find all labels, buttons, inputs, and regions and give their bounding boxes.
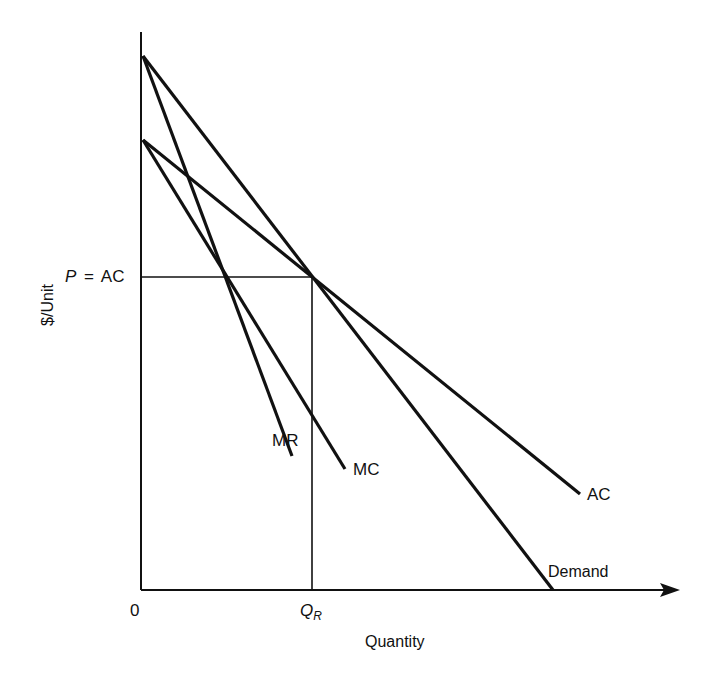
mc-label: MC [353,461,379,478]
x-axis-label: Quantity [365,634,425,650]
origin-label: 0 [130,602,139,619]
equals-symbol: = [84,267,94,286]
mr-curve [143,56,292,456]
r-subscript: R [313,609,322,623]
price-symbol: P [65,267,76,286]
demand-label: Demand [548,564,608,580]
ac-symbol: AC [101,267,125,286]
q-symbol: Q [300,601,313,620]
demand-curve [143,56,553,590]
quantity-qr-label: QR [300,602,322,622]
y-axis-label: $/Unit [39,284,57,326]
ac-label: AC [587,486,611,503]
ac-curve [143,140,580,494]
price-equals-ac-label: P = AC [65,268,124,285]
mr-label: MR [272,432,298,449]
